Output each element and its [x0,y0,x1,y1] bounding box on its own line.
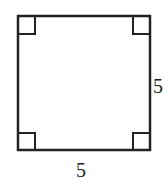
bottom-side-label: 5 [76,160,86,180]
square-diagram [0,0,168,181]
right-angle-marker-bottom-right [133,133,150,150]
right-angle-marker-top-right [133,16,150,34]
right-angle-marker-top-left [18,16,35,34]
square-outline [18,16,150,150]
right-side-label: 5 [153,76,163,96]
right-angle-marker-bottom-left [18,133,35,150]
